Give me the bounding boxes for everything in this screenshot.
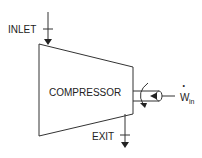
- work-dot: •: [183, 82, 186, 89]
- rotation-arrow-icon: [140, 83, 148, 108]
- compressor-label: COMPRESSOR: [49, 87, 121, 98]
- shaft-icon: [133, 91, 175, 101]
- compressor-diagram: COMPRESSOR INLET EXIT W • in: [0, 0, 202, 158]
- work-input-label: W • in: [180, 82, 195, 105]
- inlet-arrow-icon: [43, 12, 53, 45]
- exit-arrow-icon: [120, 114, 130, 148]
- work-subscript: in: [189, 98, 195, 105]
- inlet-label: INLET: [8, 24, 36, 35]
- exit-label: EXIT: [92, 131, 114, 142]
